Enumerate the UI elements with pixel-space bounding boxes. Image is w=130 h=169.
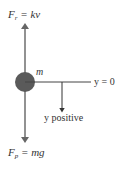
y-positive-label: y positive (44, 113, 83, 123)
force-down-label: Fp = mg (8, 147, 45, 160)
y-zero-label: y = 0 (94, 77, 115, 87)
force-up-label: Fr = kv (8, 9, 40, 22)
mass-label: m (36, 67, 43, 77)
